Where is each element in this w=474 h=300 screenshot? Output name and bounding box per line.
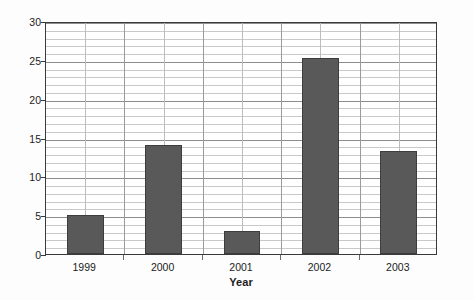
gridline-minor-horizontal: [46, 209, 436, 210]
x-axis-tick-mark: [280, 255, 281, 260]
bar-chart: Percentage change 051015202530 199920002…: [0, 0, 474, 300]
y-axis-tick-label: 5: [11, 211, 41, 222]
x-axis-tick-label: 1999: [54, 261, 114, 273]
gridline-major-horizontal: [46, 62, 436, 63]
gridline-major-horizontal: [46, 217, 436, 218]
y-axis-tick-group: 051015202530: [0, 22, 41, 255]
gridline-minor-horizontal: [46, 70, 436, 71]
gridline-vertical: [360, 23, 361, 254]
gridline-vertical: [203, 23, 204, 254]
x-axis-tick-mark: [202, 255, 203, 260]
x-axis-tick-label: 2000: [133, 261, 193, 273]
gridline-minor-horizontal: [46, 124, 436, 125]
x-axis-tick-mark: [123, 255, 124, 260]
x-axis-tick-label: 2002: [289, 261, 349, 273]
y-axis-tick-label: 10: [11, 172, 41, 183]
gridline-minor-horizontal: [46, 93, 436, 94]
bar: [67, 215, 104, 254]
gridline-minor-horizontal: [46, 155, 436, 156]
bar: [380, 151, 417, 254]
y-axis-tick-label: 25: [11, 56, 41, 67]
gridline-major-horizontal: [46, 178, 436, 179]
gridline-vertical: [124, 23, 125, 254]
gridline-minor-horizontal: [46, 147, 436, 148]
gridline-minor-horizontal: [46, 46, 436, 47]
gridline-minor-horizontal: [46, 132, 436, 133]
gridline-minor-horizontal: [46, 116, 436, 117]
gridline-major-horizontal: [46, 140, 436, 141]
x-axis-tick-mark: [359, 255, 360, 260]
y-axis-tick-label: 15: [11, 133, 41, 144]
gridline-minor-horizontal: [46, 225, 436, 226]
x-axis-tick-label: 2003: [368, 261, 428, 273]
y-axis-tick-label: 30: [11, 17, 41, 28]
gridline-minor-horizontal: [46, 31, 436, 32]
gridline-minor-horizontal: [46, 171, 436, 172]
gridline-vertical: [281, 23, 282, 254]
gridline-minor-horizontal: [46, 54, 436, 55]
bar: [145, 145, 182, 254]
x-axis-tick-group: 19992000200120022003: [45, 255, 437, 277]
gridline-minor-horizontal: [46, 194, 436, 195]
gridline-minor-horizontal: [46, 186, 436, 187]
plot-area: [45, 22, 437, 255]
gridline-minor-horizontal: [46, 77, 436, 78]
x-axis-tick-label: 2001: [211, 261, 271, 273]
gridline-vertical-center: [242, 23, 243, 254]
gridline-minor-horizontal: [46, 108, 436, 109]
y-axis-tick-label: 20: [11, 94, 41, 105]
gridline-minor-horizontal: [46, 39, 436, 40]
y-axis-tick-label: 0: [11, 250, 41, 261]
bar: [302, 58, 339, 254]
gridline-major-horizontal: [46, 101, 436, 102]
x-axis-title: Year: [45, 276, 437, 288]
gridline-minor-horizontal: [46, 163, 436, 164]
gridline-minor-horizontal: [46, 202, 436, 203]
bar: [224, 231, 261, 254]
gridline-minor-horizontal: [46, 85, 436, 86]
gridline-major-horizontal: [46, 23, 436, 24]
